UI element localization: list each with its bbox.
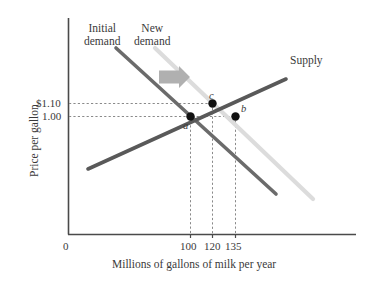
point-b-label: b bbox=[241, 103, 246, 115]
new-demand-label-line1: New bbox=[134, 22, 170, 35]
xtick-label-120: 120 bbox=[204, 240, 221, 252]
x-axis-title: Millions of gallons of milk per year bbox=[112, 258, 276, 271]
initial-demand-label-line1: Initial bbox=[84, 22, 120, 35]
supply-demand-chart: Initial demand New demand Supply a b c $… bbox=[0, 0, 385, 281]
new-demand-label: New demand bbox=[134, 22, 170, 47]
guide-lines bbox=[69, 104, 236, 235]
xtick-label-135: 135 bbox=[225, 240, 242, 252]
point-b-dot bbox=[231, 112, 239, 120]
y-axis-title: Price per gallon bbox=[28, 104, 41, 177]
ytick-label-100: 1.00 bbox=[42, 110, 61, 122]
origin-label: 0 bbox=[63, 240, 69, 252]
new-demand-label-line2: demand bbox=[134, 35, 170, 48]
initial-demand-label-line2: demand bbox=[84, 35, 120, 48]
point-a-label: a bbox=[183, 120, 188, 132]
xtick-label-100: 100 bbox=[180, 240, 197, 252]
supply-label: Supply bbox=[290, 54, 323, 67]
point-c-label: c bbox=[209, 90, 214, 102]
chart-canvas bbox=[0, 0, 385, 281]
initial-demand-label: Initial demand bbox=[84, 22, 120, 47]
